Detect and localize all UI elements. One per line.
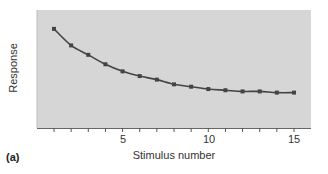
data-point (103, 62, 107, 66)
data-point (86, 53, 90, 57)
data-point (155, 78, 159, 82)
chart-canvas (0, 0, 328, 174)
data-point (275, 91, 279, 95)
data-point (292, 91, 296, 95)
y-axis-label: Response (7, 43, 19, 93)
x-axis-label: Stimulus number (133, 149, 216, 161)
data-point (223, 88, 227, 92)
data-point (189, 85, 193, 89)
data-point (52, 27, 56, 31)
x-tick-label-10: 10 (203, 133, 215, 145)
data-point (69, 43, 73, 47)
data-point (172, 82, 176, 86)
x-tick-label-5: 5 (120, 133, 126, 145)
panel-label: (a) (6, 151, 19, 163)
x-tick-label-15: 15 (288, 133, 300, 145)
data-point (138, 74, 142, 78)
data-point (258, 89, 262, 93)
data-point (206, 87, 210, 91)
data-point (241, 89, 245, 93)
data-point (121, 69, 125, 73)
plot-area (37, 10, 311, 128)
